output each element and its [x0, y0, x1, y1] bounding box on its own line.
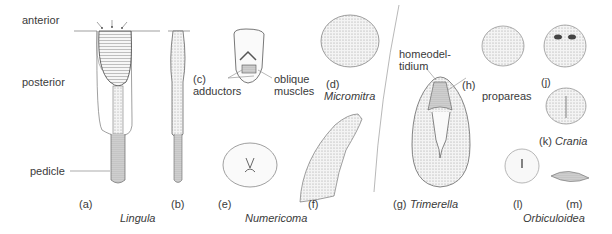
- figure-j-crania: [544, 25, 586, 67]
- figure-k-crania: [546, 88, 586, 124]
- label-oblique: oblique: [274, 73, 309, 85]
- label-orbiculoidea: Orbiculoidea: [523, 212, 585, 224]
- label-pedicle: pedicle: [30, 165, 65, 177]
- label-numericoma: Numericoma: [245, 212, 307, 224]
- lingula-a-figure: [74, 20, 160, 183]
- label-g: (g): [393, 198, 406, 210]
- figure-c-muscles: [228, 29, 272, 83]
- label-d: (d): [326, 78, 339, 90]
- label-trimerella: Trimerella: [410, 198, 458, 210]
- label-h: (h): [462, 79, 475, 91]
- label-b: (b): [171, 198, 184, 210]
- label-f: (f): [308, 198, 318, 210]
- label-muscles: muscles: [274, 85, 314, 97]
- label-propareas: propareas: [482, 90, 532, 102]
- label-posterior: posterior: [22, 76, 65, 88]
- figure-e-numericoma: [223, 143, 277, 187]
- label-e: (e): [218, 198, 231, 210]
- label-crania: Crania: [555, 135, 587, 147]
- figure-l-orbiculoidea: [505, 149, 539, 183]
- figure-d-micromitra: [321, 15, 379, 67]
- label-micromitra: Micromitra: [324, 90, 375, 102]
- label-k: (k): [539, 135, 552, 147]
- label-j: (j): [541, 76, 551, 88]
- label-adductors: adductors: [193, 85, 241, 97]
- label-c: (c): [193, 73, 206, 85]
- figure-f-numericoma: [300, 114, 362, 202]
- label-homeodeltidium-1: homeodel-: [399, 48, 451, 60]
- label-l: (l): [513, 198, 523, 210]
- label-lingula: Lingula: [120, 212, 155, 224]
- figure-m-orbiculoidea: [551, 171, 589, 181]
- label-anterior: anterior: [22, 14, 59, 26]
- label-m: (m): [566, 198, 583, 210]
- label-a: (a): [79, 198, 92, 210]
- lingula-b-figure: [168, 31, 190, 183]
- label-homeodeltidium-2: tidium: [399, 60, 428, 72]
- figure-i-orbiculoidea-shell: [482, 26, 524, 66]
